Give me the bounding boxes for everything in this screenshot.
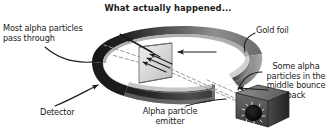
ring-left-limb <box>92 62 128 96</box>
label-detector: Detector <box>40 108 100 118</box>
arrow-detector <box>55 85 98 106</box>
figure-title: What actually happened... <box>98 4 238 14</box>
label-some-alpha-particles: Some alpha particles in the middle bounc… <box>262 62 330 101</box>
gold-foil-sheet <box>139 43 172 83</box>
label-gold-foil: Gold foil <box>256 26 326 36</box>
diagram-canvas: What actually happened... Most alpha par… <box>0 0 332 137</box>
gold-foil-face <box>139 43 172 83</box>
label-most-alpha-particles: Most alpha particles pass through <box>3 24 103 43</box>
ring-front-cut-face <box>212 84 215 101</box>
label-alpha-particle-emitter: Alpha particle emitter <box>128 107 212 126</box>
emitter-aperture <box>245 105 262 121</box>
